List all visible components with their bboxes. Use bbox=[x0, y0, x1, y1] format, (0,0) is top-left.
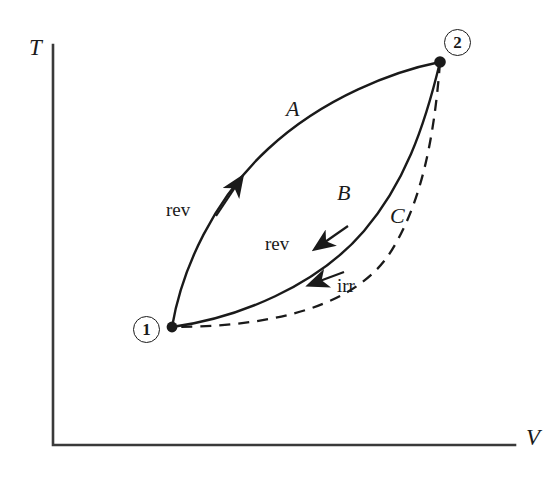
curve-A-line bbox=[172, 62, 440, 327]
state-1-point bbox=[167, 322, 178, 333]
curve-A-label: A bbox=[286, 98, 299, 120]
curve-A-arrowhead bbox=[216, 177, 242, 216]
path-A bbox=[172, 62, 440, 327]
curve-C-line bbox=[172, 62, 440, 327]
curve-C-label: C bbox=[390, 205, 405, 227]
path-B bbox=[172, 62, 440, 327]
state-1-label: 1 bbox=[133, 316, 160, 343]
curve-B-process-label: rev bbox=[265, 234, 289, 253]
curve-B-arrowhead bbox=[315, 226, 348, 249]
curve-B-label: B bbox=[337, 182, 350, 204]
state-2-label: 2 bbox=[444, 29, 471, 56]
curve-B-line bbox=[172, 62, 440, 327]
state-2-point bbox=[434, 56, 446, 68]
x-axis-label: V bbox=[526, 426, 540, 449]
curve-A-process-label: rev bbox=[166, 200, 190, 219]
y-axis-label: T bbox=[29, 36, 42, 59]
curve-C-process-label: irr bbox=[337, 276, 355, 295]
thermodynamic-tv-diagram: T V 1 2 A B C rev rev irr bbox=[0, 0, 558, 479]
path-C bbox=[172, 62, 440, 327]
